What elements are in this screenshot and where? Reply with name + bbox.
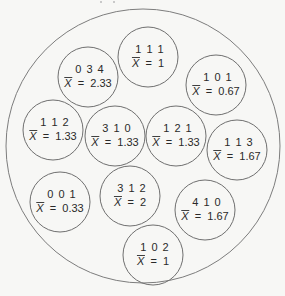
equals-sign: =: [44, 202, 63, 214]
equals-sign: =: [189, 210, 208, 222]
sample-mean-line: X = 1.67: [180, 210, 228, 222]
sampling-diagram: 0 3 4X = 2.331 1 1X = 11 0 1X = 0.671 1 …: [0, 0, 285, 296]
sample-item: 3 1 0X = 1.33: [85, 106, 145, 166]
equals-sign: =: [200, 85, 219, 97]
cropped-text-fragment: [113, 1, 115, 3]
sample-values: 1 2 1: [163, 122, 192, 134]
sample-mean-line: X = 1: [136, 255, 169, 267]
sample-mean-value: 1: [158, 57, 164, 69]
sample-mean-line: X = 1: [131, 57, 164, 69]
equals-sign: =: [72, 77, 91, 89]
sample-item: 4 1 0X = 1.67: [175, 180, 235, 240]
sample-item: 0 0 1X = 0.33: [30, 172, 90, 232]
sample-values: 1 1 3: [224, 136, 253, 148]
sample-item: 1 0 2X = 1: [123, 225, 183, 285]
sample-mean-line: X = 0.67: [191, 85, 239, 97]
sample-mean-line: X = 0.33: [35, 202, 83, 214]
sample-values: 1 1 2: [40, 116, 69, 128]
sample-mean-line: X = 1.33: [90, 136, 138, 148]
sample-values: 1 0 1: [203, 71, 232, 83]
sample-mean-value: 0.67: [218, 85, 239, 97]
sample-mean-value: 2: [140, 196, 146, 208]
sample-values: 0 0 1: [47, 188, 76, 200]
equals-sign: =: [121, 196, 140, 208]
sample-item: 1 1 3X = 1.67: [207, 120, 267, 180]
sample-mean-value: 1.67: [239, 150, 260, 162]
samples-group: 0 3 4X = 2.331 1 1X = 11 0 1X = 0.671 1 …: [23, 27, 267, 285]
sample-values: 0 3 4: [75, 63, 104, 75]
sample-mean-value: 1: [163, 255, 169, 267]
sample-item: 0 3 4X = 2.33: [58, 47, 118, 107]
sample-mean-line: X = 2.33: [63, 77, 111, 89]
sample-values: 3 1 2: [117, 182, 146, 194]
sample-values: 1 1 1: [135, 43, 164, 55]
equals-sign: =: [144, 255, 163, 267]
sample-mean-value: 1.67: [207, 210, 228, 222]
sample-values: 4 1 0: [192, 196, 221, 208]
equals-sign: =: [139, 57, 158, 69]
sample-item: 3 1 2X = 2: [100, 166, 160, 226]
sample-mean-value: 1.33: [117, 136, 138, 148]
equals-sign: =: [221, 150, 240, 162]
sample-mean-line: X = 2: [113, 196, 146, 208]
sample-item: 1 1 2X = 1.33: [23, 100, 83, 160]
equals-sign: =: [160, 136, 179, 148]
sample-mean-value: 1.33: [55, 130, 76, 142]
sample-mean-value: 2.33: [90, 77, 111, 89]
equals-sign: =: [37, 130, 56, 142]
sample-values: 1 0 2: [140, 241, 169, 253]
sample-mean-value: 1.33: [178, 136, 199, 148]
sample-values: 3 1 0: [102, 122, 131, 134]
sample-mean-line: X = 1.67: [212, 150, 260, 162]
sample-mean-line: X = 1.33: [28, 130, 76, 142]
sample-mean-line: X = 1.33: [151, 136, 199, 148]
sample-mean-value: 0.33: [62, 202, 83, 214]
cropped-text-fragment: [100, 1, 102, 3]
sample-item: 1 2 1X = 1.33: [146, 106, 206, 166]
sample-item: 1 1 1X = 1: [118, 27, 178, 87]
sample-item: 1 0 1X = 0.67: [186, 55, 246, 115]
equals-sign: =: [99, 136, 118, 148]
